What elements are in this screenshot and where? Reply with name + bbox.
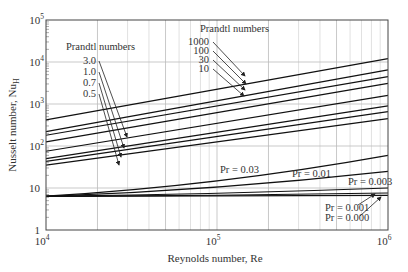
prandtl-left-label: 0.5 [83, 88, 96, 99]
y-axis-ticks: 110102103104105 [29, 12, 44, 236]
y-tick-label: 103 [29, 96, 44, 110]
prandtl-left-label: 1.0 [83, 66, 96, 77]
y-axis-title: Nusselt number, NuH [6, 78, 21, 172]
prandtl-left-label: 0.7 [83, 77, 96, 88]
arrow [213, 69, 244, 96]
y-tick-label: 102 [29, 138, 44, 152]
prandtl-left-label: 3.0 [83, 55, 96, 66]
prandtl-right-title: Prandtl numbers [200, 23, 269, 34]
chart-canvas: 110102103104105 104105106 Reynolds numbe… [0, 0, 408, 272]
x-tick-label: 104 [35, 233, 50, 247]
x-tick-label: 106 [377, 233, 392, 247]
prandtl-left-labels: 3.01.00.70.5 [83, 55, 127, 165]
y-tick-label: 105 [29, 12, 44, 26]
label-pr-0-01: Pr = 0.01 [292, 168, 331, 179]
x-tick-label: 105 [206, 233, 221, 247]
label-pr-0-03: Pr = 0.03 [220, 164, 259, 175]
arrow [213, 51, 246, 84]
prandtl-left-title: Prandtl numbers [66, 41, 135, 52]
arrow [213, 42, 245, 76]
y-tick-label: 10 [29, 182, 41, 194]
x-axis-title: Reynolds number, Re [167, 252, 262, 264]
label-pr-0-003: Pr = 0.003 [348, 176, 392, 187]
prandtl-right-label: 10 [199, 63, 210, 74]
x-axis-ticks: 104105106 [35, 233, 392, 247]
nusselt-vs-reynolds-chart: 110102103104105 104105106 Reynolds numbe… [0, 0, 408, 272]
arrow [213, 60, 245, 90]
y-tick-label: 104 [29, 54, 44, 68]
